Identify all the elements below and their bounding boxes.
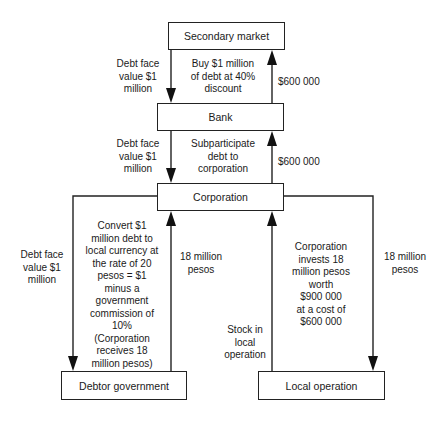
label-line: pesos	[378, 264, 432, 277]
label-line: Convert $1	[79, 220, 165, 233]
label-line: $600 000	[278, 76, 320, 89]
label-line: value $1	[112, 151, 164, 164]
label-line: $600 000	[286, 316, 356, 329]
node-label: Debtor government	[79, 380, 169, 392]
edge-label-local-corp-mid: Corporation invests 18 million pesos wor…	[286, 241, 356, 329]
edge-label-market-bank-mid: Buy $1 million of debt at 40% discount	[178, 58, 268, 96]
label-line: million debt to	[79, 233, 165, 246]
node-label: Corporation	[193, 191, 248, 203]
label-line: the rate of 20	[79, 258, 165, 271]
label-line: Subparticipate	[178, 138, 268, 151]
edge-label-corp-local-right: 18 million pesos	[378, 251, 432, 276]
label-line: pesos	[176, 264, 226, 277]
label-line: receives 18	[79, 345, 165, 358]
label-line: $600 000	[278, 156, 320, 169]
label-line: $900 000	[286, 291, 356, 304]
label-line: pesos = $1	[79, 270, 165, 283]
node-corporation: Corporation	[157, 183, 284, 211]
label-line: Debt face	[14, 249, 70, 262]
edge-label-corp-bank-right: $600 000	[278, 156, 320, 169]
node-debtor-government: Debtor government	[61, 371, 187, 400]
label-line: Debt face	[112, 58, 164, 71]
label-line: (Corporation	[79, 333, 165, 346]
label-line: at a cost of	[286, 304, 356, 317]
node-local-operation: Local operation	[258, 371, 385, 400]
edge-label-bank-corp-mid: Subparticipate debt to corporation	[178, 138, 268, 176]
label-line: 18 million	[176, 251, 226, 264]
label-line: local	[222, 337, 268, 350]
label-line: invests 18	[286, 254, 356, 267]
label-line: operation	[222, 349, 268, 362]
label-line: commission of	[79, 308, 165, 321]
label-line: 10%	[79, 320, 165, 333]
label-line: Stock in	[222, 324, 268, 337]
label-line: minus a	[79, 283, 165, 296]
label-line: Buy $1 million	[178, 58, 268, 71]
label-line: local currency at	[79, 245, 165, 258]
label-line: government	[79, 295, 165, 308]
node-label: Local operation	[286, 380, 358, 392]
node-label: Bank	[209, 111, 233, 123]
label-line: of debt at 40%	[178, 71, 268, 84]
label-line: million pesos	[286, 266, 356, 279]
label-line: 18 million	[378, 251, 432, 264]
label-line: debt to	[178, 151, 268, 164]
edge-label-market-bank-left: Debt face value $1 million	[112, 58, 164, 96]
node-label: Secondary market	[184, 30, 269, 42]
edge-label-local-corp-left: Stock in local operation	[222, 324, 268, 362]
edge-label-gov-corp: 18 million pesos	[176, 251, 226, 276]
label-line: corporation	[178, 163, 268, 176]
label-line: million pesos)	[79, 358, 165, 371]
label-line: million	[112, 163, 164, 176]
label-line: value $1	[14, 262, 70, 275]
edge-label-bank-corp-left: Debt face value $1 million	[112, 138, 164, 176]
label-line: discount	[178, 83, 268, 96]
label-line: worth	[286, 279, 356, 292]
node-secondary-market: Secondary market	[168, 22, 285, 50]
label-line: value $1	[112, 71, 164, 84]
label-line: million	[14, 274, 70, 287]
label-line: million	[112, 83, 164, 96]
edge-label-bank-market-right: $600 000	[278, 76, 320, 89]
edge-label-corp-gov-mid: Convert $1 million debt to local currenc…	[79, 220, 165, 370]
label-line: Debt face	[112, 138, 164, 151]
label-line: Corporation	[286, 241, 356, 254]
edge-label-corp-gov-left: Debt face value $1 million	[14, 249, 70, 287]
node-bank: Bank	[157, 103, 284, 131]
